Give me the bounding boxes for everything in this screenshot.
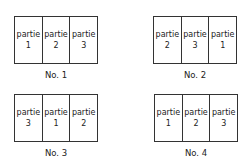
part-word: partie (72, 29, 96, 40)
part-cell: partie3 (182, 17, 210, 63)
part-cell: partie2 (154, 17, 182, 63)
part-word: partie (44, 29, 68, 40)
part-word: partie (17, 107, 41, 118)
part-cell: partie1 (43, 95, 71, 141)
arrangement-caption-2: No. 2 (153, 70, 237, 80)
arrangement-box-2: partie2 partie3 partie1 (153, 16, 237, 64)
part-word: partie (44, 107, 68, 118)
part-number: 3 (81, 40, 86, 51)
arrangement-box-1: partie1 partie2 partie3 (14, 16, 98, 64)
part-word: partie (17, 29, 41, 40)
part-word: partie (184, 107, 208, 118)
part-word: partie (183, 29, 207, 40)
part-number: 1 (26, 40, 31, 51)
part-word: partie (72, 107, 96, 118)
part-number: 2 (81, 118, 86, 129)
part-number: 2 (165, 40, 170, 51)
arrangement-caption-4: No. 4 (154, 148, 238, 158)
part-cell: partie3 (70, 17, 97, 63)
part-word: partie (212, 107, 236, 118)
part-cell: partie2 (183, 95, 211, 141)
part-number: 1 (166, 118, 171, 129)
arrangement-caption-1: No. 1 (14, 70, 98, 80)
part-cell: partie1 (155, 95, 183, 141)
part-cell: partie1 (15, 17, 43, 63)
part-number: 1 (220, 40, 225, 51)
part-cell: partie2 (70, 95, 97, 141)
part-cell: partie3 (15, 95, 43, 141)
arrangement-box-4: partie1 partie2 partie3 (154, 94, 238, 142)
part-cell: partie2 (43, 17, 71, 63)
part-word: partie (211, 29, 235, 40)
part-number: 3 (192, 40, 197, 51)
arrangement-box-3: partie3 partie1 partie2 (14, 94, 98, 142)
part-word: partie (157, 107, 181, 118)
part-cell: partie1 (209, 17, 236, 63)
part-number: 2 (53, 40, 58, 51)
part-number: 3 (26, 118, 31, 129)
part-cell: partie3 (210, 95, 237, 141)
part-number: 3 (221, 118, 226, 129)
arrangement-caption-3: No. 3 (14, 148, 98, 158)
part-number: 2 (193, 118, 198, 129)
part-number: 1 (53, 118, 58, 129)
part-word: partie (156, 29, 180, 40)
